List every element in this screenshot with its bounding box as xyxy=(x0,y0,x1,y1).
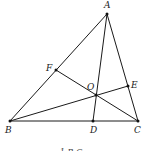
segment-ab xyxy=(10,14,107,121)
point-c xyxy=(137,120,140,123)
point-d xyxy=(92,120,95,123)
point-e xyxy=(127,85,130,88)
label-b: B xyxy=(4,125,12,135)
label-c: C xyxy=(134,125,141,135)
point-o xyxy=(95,94,98,97)
triangle-diagram: A B C D E F O 1-B-C xyxy=(0,0,143,151)
label-o: O xyxy=(87,82,95,92)
point-b xyxy=(9,120,12,123)
segment-ad xyxy=(93,14,107,121)
label-d: D xyxy=(89,125,97,135)
label-f: F xyxy=(45,63,53,73)
figure-caption: 1-B-C xyxy=(60,147,83,151)
point-f xyxy=(55,69,58,72)
point-a xyxy=(106,13,109,16)
label-a: A xyxy=(103,0,111,10)
label-e: E xyxy=(130,80,138,90)
